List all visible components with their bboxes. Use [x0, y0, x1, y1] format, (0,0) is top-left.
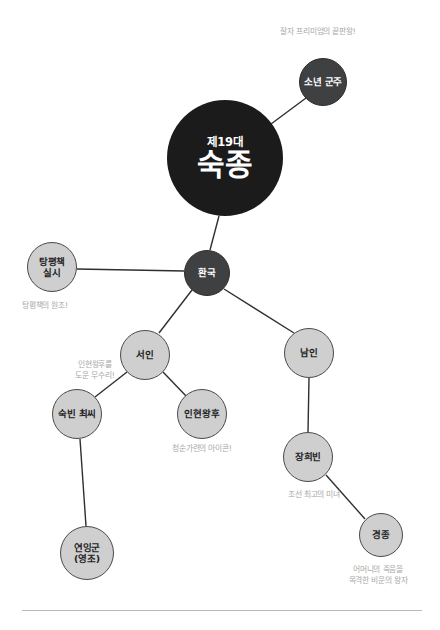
- node-sonyeon-gunju[interactable]: 소년 군주: [299, 58, 347, 106]
- node-inhyeon[interactable]: 인현왕후: [177, 389, 227, 439]
- node-label-namin: 남인: [298, 347, 320, 358]
- ann-janghuibin: 조선 최고의 미녀: [272, 489, 356, 500]
- ann-sukbin: 인현왕후를 도운 무수리!: [55, 359, 135, 382]
- ann-tangpyeong: 탕평책의 원조!: [22, 300, 102, 311]
- ann-inhyeon: 청순가련의 아이콘!: [152, 443, 252, 454]
- node-gyeongjong[interactable]: 경종: [359, 513, 403, 557]
- node-namin[interactable]: 남인: [284, 328, 334, 378]
- node-label-yeoninggun: 연잉군 (영조): [72, 542, 102, 564]
- node-hwanguk[interactable]: 환국: [184, 250, 230, 296]
- footer-rule: [22, 610, 422, 611]
- node-label-sukbin-choe: 숙빈 최씨: [56, 408, 98, 419]
- node-janghuibin[interactable]: 장희빈: [283, 432, 333, 482]
- ann-sonyeon: 잘자 프리미엄의 끝판왕!: [262, 26, 374, 37]
- edge-namin-janghuibin: [308, 378, 309, 432]
- edge-sukjong-hwanguk: [210, 216, 219, 250]
- node-label-tangpyeong: 탕평책 실시: [37, 256, 67, 278]
- edge-sukjong-sonyeon: [271, 98, 306, 124]
- ann-gyeongjong: 어머니의 죽음을 목격한 비운의 왕자: [325, 564, 431, 587]
- node-label-hwanguk: 환국: [196, 267, 218, 278]
- node-label-gyeongjong: 경종: [370, 529, 392, 540]
- edge-hwanguk-namin: [224, 289, 294, 333]
- diagram-page: 소년 군주제19대숙종환국탕평책 실시서인남인숙빈 최씨인현왕후장희빈경종연잉군…: [0, 0, 440, 630]
- edge-hwanguk-tangpyeong: [77, 269, 184, 271]
- edge-seoin-inhyeon: [163, 372, 187, 397]
- node-label-seoin: 서인: [134, 349, 156, 360]
- node-sukbin-choe[interactable]: 숙빈 최씨: [52, 389, 102, 439]
- root-name-label: 숙종: [197, 150, 253, 180]
- edge-sukbin-yeoninggun: [80, 439, 86, 526]
- node-label-inhyeon: 인현왕후: [182, 408, 221, 419]
- node-yeoninggun[interactable]: 연잉군 (영조): [60, 526, 114, 580]
- node-label-janghuibin: 장희빈: [293, 451, 323, 462]
- node-tangpyeong[interactable]: 탕평책 실시: [27, 242, 77, 292]
- node-sukjong[interactable]: 제19대숙종: [167, 100, 283, 216]
- edge-hwanguk-seoin: [159, 290, 192, 333]
- node-label-sonyeon-gunju: 소년 군주: [302, 76, 344, 87]
